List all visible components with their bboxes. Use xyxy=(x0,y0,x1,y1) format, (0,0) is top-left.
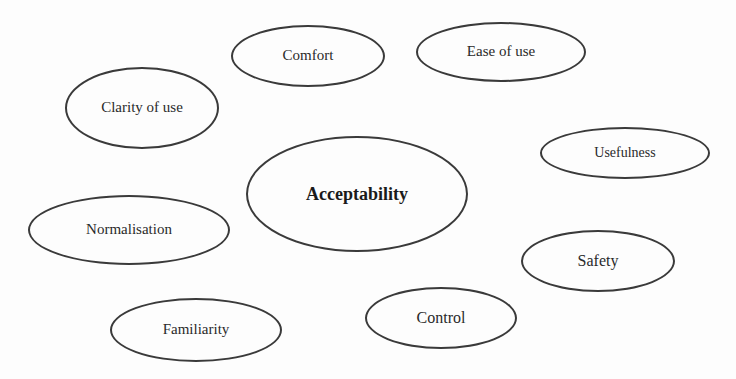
node-usefulness-label: Usefulness xyxy=(594,143,655,163)
node-acceptability-label: Acceptability xyxy=(306,181,408,207)
node-safety: Safety xyxy=(521,230,675,292)
node-familiarity-label: Familiarity xyxy=(163,319,230,341)
node-familiarity: Familiarity xyxy=(110,298,282,362)
node-normalisation: Normalisation xyxy=(28,195,230,265)
node-comfort: Comfort xyxy=(231,25,385,87)
node-control: Control xyxy=(365,287,517,349)
node-clarity-of-use: Clarity of use xyxy=(65,67,219,149)
node-comfort-label: Comfort xyxy=(283,45,334,67)
diagram-canvas: Acceptability Comfort Ease of use Clarit… xyxy=(0,0,736,379)
node-safety-label: Safety xyxy=(578,249,619,272)
node-ease-of-use: Ease of use xyxy=(416,22,586,82)
node-usefulness: Usefulness xyxy=(540,127,710,179)
node-acceptability: Acceptability xyxy=(246,136,468,252)
node-control-label: Control xyxy=(417,306,466,329)
node-normalisation-label: Normalisation xyxy=(86,219,172,241)
node-clarity-of-use-label: Clarity of use xyxy=(97,97,187,119)
node-ease-of-use-label: Ease of use xyxy=(467,41,535,63)
